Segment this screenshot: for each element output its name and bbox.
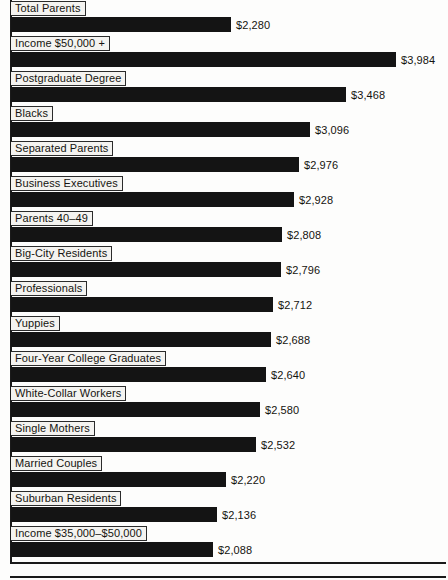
bar-row: Big-City Residents$2,796 <box>0 245 448 280</box>
bar-value-label: $2,220 <box>231 473 265 487</box>
bar <box>11 507 217 522</box>
bar-category-label: Postgraduate Degree <box>15 73 121 84</box>
bar-row: Married Couples$2,220 <box>0 455 448 490</box>
bar-category-label-plate: Single Mothers <box>11 421 95 436</box>
bar-value-label: $2,976 <box>304 158 338 172</box>
bar-value-label: $3,984 <box>401 53 435 67</box>
bar-chart: Total Parents$2,280Income $50,000 +$3,98… <box>0 0 448 580</box>
bar-category-label: Big-City Residents <box>15 248 107 259</box>
bar-category-label: White-Collar Workers <box>15 388 121 399</box>
bar-category-label: Single Mothers <box>15 423 90 434</box>
bar-value-label: $2,580 <box>265 403 299 417</box>
bar <box>11 472 226 487</box>
chart-footer-rule <box>10 576 446 578</box>
bar-category-label-plate: Four-Year College Graduates <box>11 351 166 366</box>
bar-value-label: $2,796 <box>286 263 320 277</box>
bar-row: Single Mothers$2,532 <box>0 420 448 455</box>
bar-category-label-plate: Separated Parents <box>11 141 113 156</box>
bar-category-label-plate: Postgraduate Degree <box>11 71 126 86</box>
bar-value-label: $2,088 <box>218 543 252 557</box>
bar-category-label-plate: Total Parents <box>11 1 86 16</box>
bar-row: Four-Year College Graduates$2,640 <box>0 350 448 385</box>
bar-row: Professionals$2,712 <box>0 280 448 315</box>
bar-category-label: Married Couples <box>15 458 97 469</box>
bar-value-label: $2,928 <box>299 193 333 207</box>
bar-category-label: Separated Parents <box>15 143 108 154</box>
bar <box>11 297 273 312</box>
bar <box>11 157 299 172</box>
bar-category-label-plate: Suburban Residents <box>11 491 121 506</box>
bar-row: Total Parents$2,280 <box>0 0 448 35</box>
bar <box>11 192 294 207</box>
bar-row: Income $35,000–$50,000$2,088 <box>0 525 448 560</box>
bar-row: Suburban Residents$2,136 <box>0 490 448 525</box>
bar <box>11 262 281 277</box>
bar <box>11 52 396 67</box>
bar-category-label: Business Executives <box>15 178 118 189</box>
bar-row: Postgraduate Degree$3,468 <box>0 70 448 105</box>
bar-value-label: $2,640 <box>271 368 305 382</box>
bar-category-label: Yuppies <box>15 318 55 329</box>
bar <box>11 227 282 242</box>
bar-row: Parents 40–49$2,808 <box>0 210 448 245</box>
bar-row: Business Executives$2,928 <box>0 175 448 210</box>
bar-category-label-plate: Big-City Residents <box>11 246 112 261</box>
bar-category-label-plate: Income $35,000–$50,000 <box>11 526 147 541</box>
bar-category-label: Income $35,000–$50,000 <box>15 528 142 539</box>
bar-rows-container: Total Parents$2,280Income $50,000 +$3,98… <box>0 0 448 560</box>
bar-value-label: $2,808 <box>287 228 321 242</box>
bar <box>11 122 310 137</box>
bar-row: Blacks$3,096 <box>0 105 448 140</box>
bar-value-label: $2,280 <box>236 18 270 32</box>
bar <box>11 17 231 32</box>
bar-value-label: $2,532 <box>261 438 295 452</box>
bar-category-label-plate: Married Couples <box>11 456 102 471</box>
bar-value-label: $3,096 <box>315 123 349 137</box>
bar <box>11 332 271 347</box>
bar-row: Yuppies$2,688 <box>0 315 448 350</box>
bar <box>11 402 260 417</box>
bar-category-label: Parents 40–49 <box>15 213 88 224</box>
bar-row: Separated Parents$2,976 <box>0 140 448 175</box>
bar-value-label: $2,688 <box>276 333 310 347</box>
bar <box>11 437 256 452</box>
bar-category-label: Total Parents <box>15 3 81 14</box>
bar-category-label-plate: Income $50,000 + <box>11 36 110 51</box>
bar <box>11 367 266 382</box>
bar-category-label-plate: Yuppies <box>11 316 60 331</box>
bar-category-label: Income $50,000 + <box>15 38 105 49</box>
bar-value-label: $3,468 <box>351 88 385 102</box>
bar-category-label-plate: Parents 40–49 <box>11 211 93 226</box>
bar-value-label: $2,136 <box>222 508 256 522</box>
bar-category-label: Suburban Residents <box>15 493 116 504</box>
bar-category-label-plate: Blacks <box>11 106 53 121</box>
bar-row: Income $50,000 +$3,984 <box>0 35 448 70</box>
bar-category-label-plate: Business Executives <box>11 176 123 191</box>
bar-value-label: $2,712 <box>278 298 312 312</box>
bar-category-label-plate: Professionals <box>11 281 87 296</box>
bar-row: White-Collar Workers$2,580 <box>0 385 448 420</box>
chart-baseline-rule <box>10 562 446 564</box>
bar-category-label: Professionals <box>15 283 82 294</box>
bar-category-label: Blacks <box>15 108 48 119</box>
bar-category-label-plate: White-Collar Workers <box>11 386 126 401</box>
bar-category-label: Four-Year College Graduates <box>15 353 161 364</box>
bar <box>11 542 213 557</box>
bar <box>11 87 346 102</box>
